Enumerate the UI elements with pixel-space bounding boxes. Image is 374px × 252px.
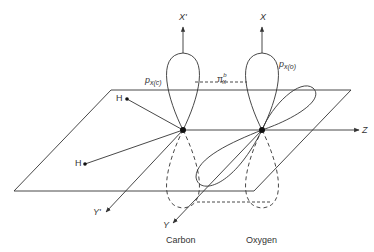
- carbon-p-orbital-label: px(c): [145, 76, 162, 86]
- pi-bond-label: πbx: [217, 72, 226, 85]
- orbital-diagram: [0, 0, 374, 252]
- oxygen-label: Oxygen: [246, 236, 277, 245]
- hydrogen-label-1: H: [116, 94, 123, 103]
- molecular-plane: [14, 90, 351, 191]
- hydrogen-atom-2: [83, 162, 87, 166]
- hydrogen-label-2: H: [75, 159, 82, 168]
- y-axis: [173, 130, 262, 223]
- oxygen-p-upper-lobe: [246, 53, 279, 130]
- x-prime-label: X': [179, 13, 187, 22]
- ch-bond-1: [127, 99, 183, 130]
- pi-subscript: x: [223, 78, 227, 85]
- oxygen-tilted-lobe-upper: [262, 86, 316, 130]
- carbon-label: Carbon: [166, 236, 196, 245]
- y-label: Y: [163, 221, 169, 230]
- oxygen-p-orbital-label: px(o): [279, 60, 296, 70]
- y-prime-label: Y': [93, 208, 101, 217]
- z-label: Z: [362, 126, 368, 135]
- oxygen-p-subscript: x(o): [284, 63, 296, 70]
- ch-bond-2: [85, 130, 183, 164]
- x-label: X: [260, 13, 266, 22]
- carbon-p-upper-lobe: [167, 53, 200, 130]
- oxygen-tilted-lobe-lower: [196, 130, 262, 186]
- carbon-atom: [180, 127, 186, 133]
- hydrogen-atom-1: [125, 97, 129, 101]
- oxygen-atom: [259, 127, 265, 133]
- y-prime-axis: [106, 130, 183, 212]
- carbon-p-subscript: x(c): [150, 79, 162, 86]
